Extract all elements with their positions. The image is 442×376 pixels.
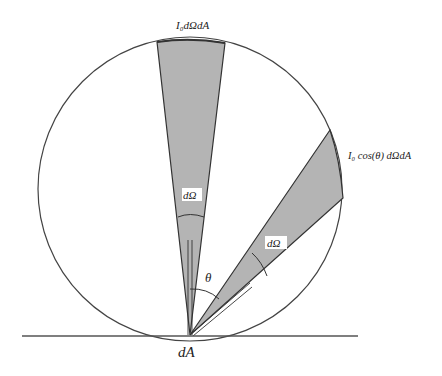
lambert-diagram: I₀dΩdA I₀ cos(θ) dΩdA dΩ dΩ θ dA	[0, 0, 442, 376]
tilted-cone-label: I₀ cos(θ) dΩdA	[347, 150, 412, 162]
top-cone-label: I₀dΩdA	[175, 19, 209, 31]
solid-angle-label-tilted: dΩ	[267, 237, 281, 249]
surface-label: dA	[178, 344, 196, 360]
tilted-cone	[190, 130, 343, 335]
solid-angle-label-vertical: dΩ	[183, 189, 197, 201]
vertical-cone	[157, 40, 225, 335]
theta-label: θ	[205, 270, 212, 285]
